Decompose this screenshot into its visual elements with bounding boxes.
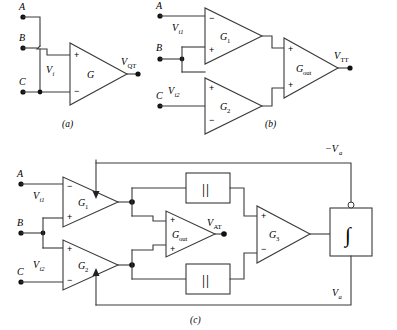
amp-b-G1-input-top-sign: − xyxy=(209,13,214,23)
amp-c-Gout-input-bottom-sign: + xyxy=(170,244,175,254)
signal-sub-c-vi2: i2 xyxy=(40,265,46,272)
feedback-sub-c-pos: a xyxy=(339,293,343,300)
panel-b: A V i1 B C V i2 − + G 1 xyxy=(155,0,353,134)
output-sub-b-VTT: TT xyxy=(341,56,349,63)
wire-a-A-down xyxy=(23,17,40,46)
signal-sub-a-vi: i xyxy=(53,70,55,77)
panel-caption-b: (b) xyxy=(265,119,276,130)
amp-c-G1-sub: 1 xyxy=(85,203,88,210)
signal-sub-b-vi2: i2 xyxy=(175,91,181,98)
terminal-label-c-C: C xyxy=(17,266,24,277)
wire-c-G1-to-Gout-plus xyxy=(132,216,166,221)
wire-c-abs-bottom-to-G3-minus xyxy=(230,253,257,279)
signal-label-c-vi1: V i1 xyxy=(33,190,45,203)
amp-b-G1-sub: 1 xyxy=(227,37,230,44)
amp-a-G-label: G xyxy=(87,69,94,80)
block-c-abs-top-label: || xyxy=(202,181,210,197)
amp-c-G1-input-top-sign: − xyxy=(67,181,72,191)
block-c-abs-bottom-label: || xyxy=(202,272,210,288)
feedback-label-c-neg-Va: −V a xyxy=(325,143,343,156)
wire-c-G2-to-Gout-plus xyxy=(132,245,166,250)
signal-sub-b-vi1: i1 xyxy=(179,28,184,35)
output-sub-c-VAT: AT xyxy=(214,223,222,230)
panel-caption-a: (a) xyxy=(62,119,73,130)
signal-label-b-vi2: V i2 xyxy=(168,85,180,98)
wire-b-G1-to-Gout xyxy=(262,36,284,48)
terminal-label-b-C: C xyxy=(156,90,163,101)
terminal-label-b-A: A xyxy=(155,0,163,11)
output-label-a-VQT: V QT xyxy=(121,56,136,69)
amp-c-G3-input-top-sign: + xyxy=(261,211,266,221)
inverting-bubble-icon xyxy=(348,202,354,208)
amp-b-G2-sub: 2 xyxy=(227,107,230,114)
terminal-label-c-B: B xyxy=(17,217,23,228)
block-c-integrator xyxy=(330,208,372,256)
signal-sub-c-vi1: i1 xyxy=(40,196,45,203)
terminal-label-c-A: A xyxy=(16,168,24,179)
amp-c-G3-input-bottom-sign: − xyxy=(261,244,266,254)
panel-a: A B C V i + − G V QT (a) xyxy=(18,1,141,130)
feedback-base-c-neg: −V xyxy=(325,143,340,154)
panel-c: A V i1 B C V i2 − + G 1 xyxy=(16,143,372,326)
amp-a-G-input-bottom-sign: − xyxy=(74,86,79,96)
amp-c-G2-sub: 2 xyxy=(85,266,88,273)
output-dot-c-VAT xyxy=(221,231,227,237)
junction-a-vi-c xyxy=(38,90,43,95)
signal-label-c-vi2: V i2 xyxy=(33,259,45,272)
amp-c-G2-input-bottom-sign: − xyxy=(67,275,72,285)
output-label-b-VTT: V TT xyxy=(334,50,349,63)
block-c-integrator-label: ∫ xyxy=(343,223,352,248)
amp-b-Gout-sub: out xyxy=(303,69,312,76)
amp-b-G2-input-top-sign: + xyxy=(209,83,214,93)
amp-b-Gout-input-top-sign: + xyxy=(288,44,293,54)
wire-c-abs-top-to-G3-plus xyxy=(230,188,257,216)
output-label-c-VAT: V AT xyxy=(207,217,222,230)
amp-c-Gout-input-top-sign: + xyxy=(170,215,175,225)
amp-c-G2-input-top-sign: + xyxy=(67,244,72,254)
figure-circuit-diagrams: A B C V i + − G V QT (a) xyxy=(0,0,397,330)
output-dot-b-VTT xyxy=(347,65,352,70)
signal-label-a-vi: V i xyxy=(46,64,55,77)
output-sub-a-VQT: QT xyxy=(128,62,137,69)
amp-b-Gout-input-bottom-sign: + xyxy=(288,80,293,90)
terminal-label-b-B: B xyxy=(156,42,162,53)
amp-b-G2-input-bottom-sign: − xyxy=(209,115,214,125)
amp-a-G-input-top-sign: + xyxy=(74,50,79,60)
amp-b-G1-input-bottom-sign: + xyxy=(209,45,214,55)
terminal-label-a-B: B xyxy=(19,32,25,43)
wire-a-A-to-plus xyxy=(37,46,70,55)
terminal-label-a-A: A xyxy=(18,1,26,12)
amp-c-G1-input-bottom-sign: + xyxy=(67,212,72,222)
feedback-sub-c-neg: a xyxy=(339,149,343,156)
panel-caption-c: (c) xyxy=(190,315,201,326)
wire-b-G2-to-Gout xyxy=(262,88,284,106)
terminal-label-a-C: C xyxy=(19,76,26,87)
signal-label-b-vi1: V i1 xyxy=(172,22,184,35)
feedback-label-c-pos-Va: V a xyxy=(332,287,343,300)
amp-c-Gout-sub: out xyxy=(179,235,188,242)
output-dot-a-VQT xyxy=(135,71,140,76)
